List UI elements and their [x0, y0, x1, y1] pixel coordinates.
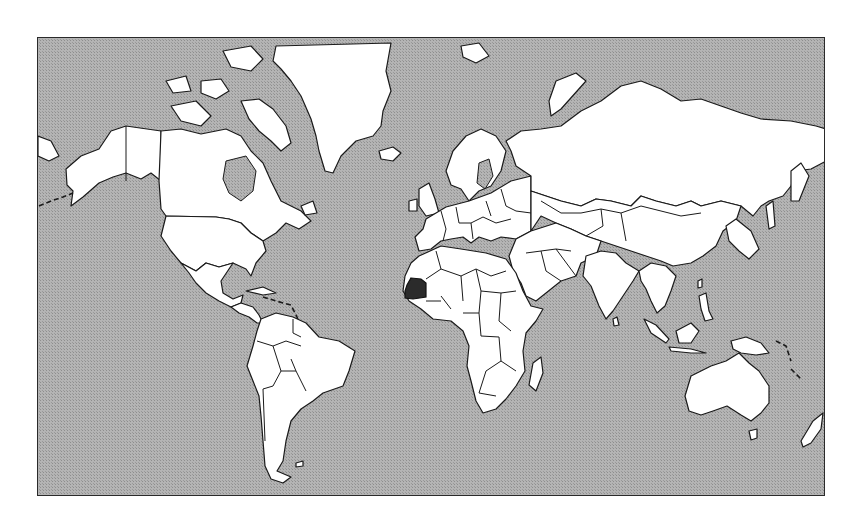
ireland — [409, 199, 417, 211]
world-map — [38, 38, 825, 496]
world-map-frame — [37, 37, 825, 496]
tasmania — [749, 429, 757, 440]
taiwan — [698, 279, 702, 288]
